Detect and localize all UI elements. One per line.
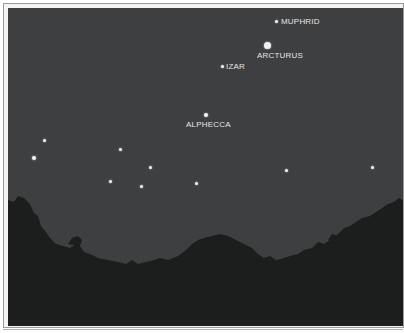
star [285, 169, 288, 172]
star [149, 166, 152, 169]
star [119, 148, 122, 151]
label-muphrid: MUPHRID [281, 18, 320, 26]
star-izar [221, 65, 224, 68]
tree-silhouette [8, 8, 403, 326]
star [140, 185, 143, 188]
star [371, 166, 374, 169]
star [43, 139, 46, 142]
star-alphecca [204, 113, 208, 117]
label-alphecca: ALPHECCA [186, 121, 231, 129]
star-muphrid [275, 20, 278, 23]
star-arcturus [264, 42, 271, 49]
star [195, 182, 198, 185]
label-izar: IZAR [226, 63, 245, 71]
night-sky-photo: MUPHRID ARCTURUS IZAR ALPHECCA [8, 8, 403, 326]
star [32, 156, 36, 160]
label-arcturus: ARCTURUS [257, 52, 303, 60]
frame-bottom-rule [3, 329, 403, 330]
star [109, 180, 112, 183]
